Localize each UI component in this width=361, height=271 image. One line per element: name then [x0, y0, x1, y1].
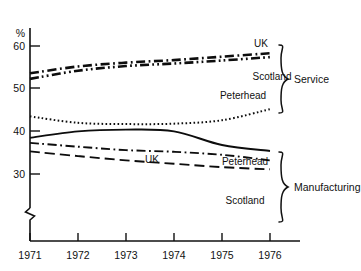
- series-group-service: [30, 53, 270, 124]
- series-label-manufacturing-uk: UK: [145, 154, 159, 165]
- x-axis-labels: 1971 1972 1973 1974 1975 1976: [18, 249, 282, 261]
- y-axis-labels: % 60 50 40 30: [13, 27, 25, 180]
- x-tick-label-1971: 1971: [18, 249, 42, 261]
- chart-container: % 60 50 40 30 1971 1972 1973 1974 1975 1…: [0, 0, 361, 271]
- y-tick-label-60: 60: [13, 40, 25, 52]
- line-chart-svg: % 60 50 40 30 1971 1972 1973 1974 1975 1…: [0, 0, 361, 271]
- y-tick-label-40: 40: [13, 125, 25, 137]
- x-tick-label-1976: 1976: [258, 249, 282, 261]
- x-tick-label-1974: 1974: [162, 249, 186, 261]
- group-label-manufacturing: Manufacturing: [294, 181, 361, 193]
- series-label-manufacturing-peterhead: Peterhead: [222, 156, 268, 167]
- x-tick-label-1975: 1975: [210, 249, 234, 261]
- series-label-service-peterhead: Peterhead: [220, 90, 266, 101]
- series-label-manufacturing-scotland: Scotland: [226, 195, 265, 206]
- series-label-service-uk: UK: [254, 38, 268, 49]
- series-line-manufacturing-peterhead: [30, 129, 270, 150]
- manufacturing-brace: [279, 152, 288, 222]
- series-line-service-peterhead: [30, 109, 270, 124]
- series-line-service-uk: [30, 53, 270, 73]
- data-series-layer: [30, 53, 270, 169]
- x-tick-label-1973: 1973: [114, 249, 138, 261]
- y-tick-label-50: 50: [13, 82, 25, 94]
- y-tick-label-30: 30: [13, 168, 25, 180]
- x-tick-label-1972: 1972: [66, 249, 90, 261]
- y-axis-unit-label: %: [16, 27, 25, 39]
- group-label-service: Service: [294, 73, 329, 85]
